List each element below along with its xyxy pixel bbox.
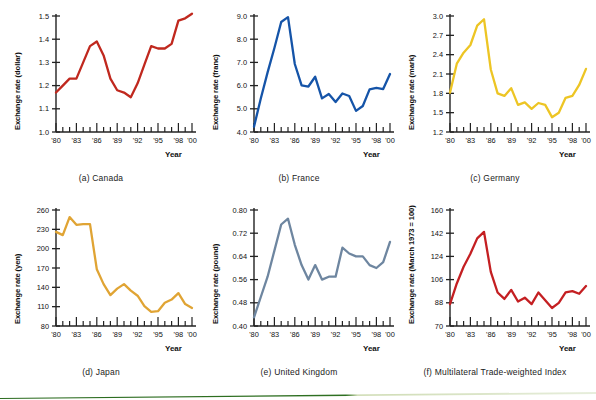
x-tick-label: '92 (331, 136, 341, 145)
y-tick-label: 160 (431, 206, 443, 215)
plot-area-france: 4.05.06.07.08.09.0'80'83'86'89'92'95'98'… (200, 4, 398, 164)
x-tick-label: '92 (527, 330, 537, 339)
plot-area-united-kingdom: 0.400.480.560.640.720.80'80'83'86'89'92'… (200, 198, 398, 358)
x-tick-label: '95 (153, 330, 163, 339)
data-series-line (450, 19, 586, 117)
x-tick-label: '83 (72, 330, 82, 339)
plot-area-germany: 1.21.51.82.12.42.73.0'80'83'86'89'92'95'… (396, 4, 594, 164)
x-tick-label: '92 (527, 136, 537, 145)
y-tick-label: 1.5 (39, 12, 49, 21)
y-tick-label: 70 (435, 322, 443, 331)
y-tick-label: 106 (431, 275, 443, 284)
y-tick-label: 230 (37, 225, 49, 234)
x-tick-label: '83 (270, 136, 280, 145)
chart-panel-japan: 80110140170200230260'80'83'86'89'92'95'9… (2, 198, 200, 391)
y-tick-label: 260 (37, 206, 49, 215)
plot-area-multilateral-trade-weighted-index: 7088106124142160'80'83'86'89'92'95'98'00 (396, 198, 594, 358)
x-tick-label: '98 (372, 136, 382, 145)
chart-svg-multilateral-trade-weighted-index: 7088106124142160'80'83'86'89'92'95'98'00 (396, 198, 594, 358)
chart-panel-france: 4.05.06.07.08.09.0'80'83'86'89'92'95'98'… (200, 4, 398, 197)
x-tick-label: '89 (310, 330, 320, 339)
data-series-line (254, 17, 390, 127)
chart-caption-multilateral-trade-weighted-index: (f) Multilateral Trade-weighted Index (396, 367, 594, 377)
x-tick-label: '83 (72, 136, 82, 145)
x-tick-label: '98 (568, 330, 578, 339)
y-tick-label: 1.3 (39, 58, 49, 67)
x-tick-label: '80 (249, 136, 259, 145)
x-tick-label: '00 (187, 136, 197, 145)
y-tick-label: 8.0 (237, 35, 247, 44)
y-tick-label: 0.72 (233, 229, 247, 238)
data-series-line (56, 14, 192, 98)
x-tick-label: '00 (385, 136, 395, 145)
y-tick-label: 88 (435, 298, 443, 307)
y-tick-label: 1.0 (39, 128, 49, 137)
x-tick-label: '86 (92, 330, 102, 339)
y-tick-label: 5.0 (237, 104, 247, 113)
x-tick-label: '95 (351, 330, 361, 339)
chart-caption-germany: (c) Germany (396, 173, 594, 183)
chart-caption-france: (b) France (200, 173, 398, 183)
chart-panel-multilateral-trade-weighted-index: 7088106124142160'80'83'86'89'92'95'98'00… (396, 198, 594, 391)
chart-panel-united-kingdom: 0.400.480.560.640.720.80'80'83'86'89'92'… (200, 198, 398, 391)
y-tick-label: 7.0 (237, 58, 247, 67)
chart-caption-japan: (d) Japan (2, 367, 200, 377)
x-axis-title-united-kingdom: Year (363, 344, 380, 353)
x-tick-label: '86 (486, 330, 496, 339)
x-tick-label: '95 (351, 136, 361, 145)
x-axis-title-japan: Year (165, 344, 182, 353)
x-tick-label: '83 (270, 330, 280, 339)
plot-area-canada: 1.01.11.21.31.41.5'80'83'86'89'92'95'98'… (2, 4, 200, 164)
x-tick-label: '00 (581, 330, 591, 339)
y-tick-label: 6.0 (237, 81, 247, 90)
x-axis-title-multilateral-trade-weighted-index: Year (559, 344, 576, 353)
y-tick-label: 110 (37, 302, 49, 311)
x-tick-label: '98 (372, 330, 382, 339)
y-axis-title-japan: Exchange rate (yen) (13, 254, 22, 324)
y-tick-label: 0.64 (233, 252, 247, 261)
x-tick-label: '89 (112, 330, 122, 339)
y-tick-label: 0.80 (233, 206, 247, 215)
x-tick-label: '00 (581, 136, 591, 145)
y-tick-label: 2.4 (433, 50, 443, 59)
chart-svg-united-kingdom: 0.400.480.560.640.720.80'80'83'86'89'92'… (200, 198, 398, 358)
x-tick-label: '86 (290, 136, 300, 145)
green-rule-svg (0, 390, 596, 399)
x-tick-label: '80 (51, 330, 61, 339)
x-tick-label: '80 (249, 330, 259, 339)
chart-svg-france: 4.05.06.07.08.09.0'80'83'86'89'92'95'98'… (200, 4, 398, 164)
x-tick-label: '89 (112, 136, 122, 145)
y-tick-label: 1.8 (433, 89, 443, 98)
chart-panel-germany: 1.21.51.82.12.42.73.0'80'83'86'89'92'95'… (396, 4, 594, 197)
x-tick-label: '80 (445, 330, 455, 339)
figure-sheet: 1.01.11.21.31.41.5'80'83'86'89'92'95'98'… (0, 0, 596, 400)
x-tick-label: '95 (547, 330, 557, 339)
x-tick-label: '86 (290, 330, 300, 339)
y-tick-label: 140 (37, 283, 49, 292)
chart-caption-canada: (a) Canada (2, 173, 200, 183)
data-series-line (56, 217, 192, 312)
x-tick-label: '83 (466, 136, 476, 145)
y-tick-label: 124 (431, 252, 443, 261)
y-tick-label: 170 (37, 264, 49, 273)
chart-svg-canada: 1.01.11.21.31.41.5'80'83'86'89'92'95'98'… (2, 4, 200, 164)
y-tick-label: 0.56 (233, 275, 247, 284)
y-tick-label: 1.1 (39, 104, 49, 113)
green-rule-divider (0, 385, 596, 394)
x-axis-title-france: Year (363, 150, 380, 159)
x-tick-label: '86 (92, 136, 102, 145)
y-axis-title-germany: Exchange rate (mark) (407, 55, 416, 130)
x-tick-label: '86 (486, 136, 496, 145)
x-tick-label: '92 (331, 330, 341, 339)
y-tick-label: 1.4 (39, 35, 49, 44)
chart-panel-canada: 1.01.11.21.31.41.5'80'83'86'89'92'95'98'… (2, 4, 200, 197)
x-tick-label: '80 (445, 136, 455, 145)
y-axis-title-canada: Exchange rate (dollar) (13, 52, 22, 130)
x-tick-label: '89 (506, 136, 516, 145)
chart-svg-japan: 80110140170200230260'80'83'86'89'92'95'9… (2, 198, 200, 358)
x-tick-label: '89 (310, 136, 320, 145)
chart-caption-united-kingdom: (e) United Kingdom (200, 367, 398, 377)
y-tick-label: 0.40 (233, 322, 247, 331)
y-tick-label: 1.2 (39, 81, 49, 90)
y-tick-label: 1.5 (433, 108, 443, 117)
